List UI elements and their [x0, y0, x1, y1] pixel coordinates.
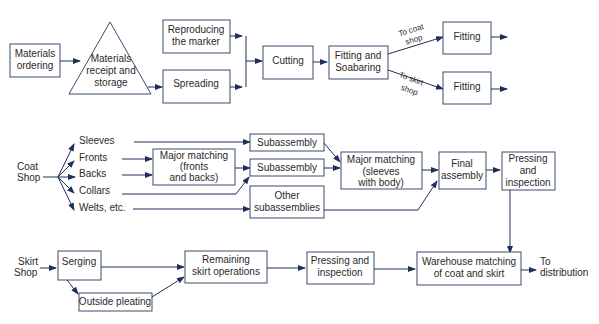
svg-text:(sleeves: (sleeves: [362, 166, 399, 177]
materials-ordering-label-2: ordering: [17, 60, 54, 71]
reproducing-marker-node: Reproducing the marker: [163, 20, 230, 53]
spreading-label: Spreading: [173, 78, 219, 89]
svg-text:(fronts: (fronts: [180, 161, 208, 172]
arrow-to-welts: [58, 177, 74, 210]
receipt-label-2: receipt and: [86, 65, 135, 76]
svg-text:Serging: Serging: [62, 256, 96, 267]
arrow-to-collars: [58, 177, 74, 193]
svg-text:Final: Final: [451, 158, 473, 169]
svg-text:inspection: inspection: [505, 177, 550, 188]
svg-text:of coat and skirt: of coat and skirt: [434, 268, 505, 279]
to-distribution-label-2: distribution: [540, 267, 588, 278]
svg-text:assembly: assembly: [441, 170, 483, 181]
fitting-soabaring-label-1: Fitting and: [335, 50, 382, 61]
warehouse-matching-node: Warehouse matching of coat and skirt: [417, 252, 521, 285]
reproducing-label-1: Reproducing: [168, 24, 225, 35]
fitting-soabaring-label-2: Soabaring: [335, 62, 381, 73]
coat-pressing-inspection-node: Pressing and inspection: [502, 152, 555, 190]
svg-text:and: and: [520, 165, 537, 176]
svg-text:Outside pleating: Outside pleating: [79, 296, 151, 307]
svg-text:Pressing and: Pressing and: [311, 255, 369, 266]
fitting-soabaring-node: Fitting and Soabaring: [329, 46, 388, 79]
arrow-to-fronts: [58, 161, 74, 177]
spreading-node: Spreading: [163, 70, 230, 103]
to-distribution-label-1: To: [540, 256, 551, 267]
svg-text:with body): with body): [357, 177, 404, 188]
arrow-pleating-to-remaining: [152, 277, 184, 297]
receipt-label-1: Materials: [91, 53, 132, 64]
svg-text:Major matching: Major matching: [347, 154, 415, 165]
cutting-node: Cutting: [263, 46, 313, 79]
major-matching-sleeves-body-node: Major matching (sleeves with body): [341, 152, 422, 189]
svg-text:Subassembly: Subassembly: [257, 162, 317, 173]
serging-node: Serging: [58, 251, 101, 280]
major-matching-fronts-backs-node: Major matching (fronts and backs): [153, 149, 235, 185]
materials-receipt-storage-node: Materials receipt and storage: [69, 22, 151, 94]
subassembly-2-node: Subassembly: [250, 159, 324, 176]
fitting-skirt-node: Fitting: [443, 72, 491, 104]
fitting-coat-node: Fitting: [443, 22, 491, 54]
skirt-shop-label: Skirt Shop: [14, 256, 38, 278]
materials-ordering-node: Materials ordering: [10, 44, 60, 77]
part-welts: Welts, etc.: [79, 202, 126, 213]
svg-text:Pressing: Pressing: [509, 153, 548, 164]
arrow-sub1-to-major: [324, 143, 340, 162]
part-fronts: Fronts: [79, 152, 107, 163]
svg-text:Shop: Shop: [14, 267, 38, 278]
svg-text:skirt operations: skirt operations: [192, 266, 260, 277]
remaining-skirt-operations-node: Remaining skirt operations: [185, 251, 267, 283]
svg-text:Shop: Shop: [17, 172, 41, 183]
receipt-label-3: storage: [94, 77, 128, 88]
other-subassemblies-node: Other subassemblies: [250, 186, 324, 218]
fitting-skirt-label: Fitting: [453, 81, 480, 92]
outside-pleating-node: Outside pleating: [79, 293, 152, 311]
svg-text:and backs): and backs): [170, 172, 219, 183]
part-backs: Backs: [79, 168, 106, 179]
arrow-serging-to-pleating: [67, 280, 78, 294]
subassembly-1-node: Subassembly: [250, 134, 324, 151]
svg-text:Remaining: Remaining: [202, 254, 250, 265]
svg-text:Subassembly: Subassembly: [257, 137, 317, 148]
part-collars: Collars: [79, 185, 110, 196]
coat-shop-label: Coat Shop: [17, 161, 41, 183]
svg-text:subassemblies: subassemblies: [254, 202, 320, 213]
svg-text:Coat: Coat: [17, 161, 38, 172]
fitting-coat-label: Fitting: [453, 31, 480, 42]
garment-production-flow-diagram: Materials ordering Materials receipt and…: [0, 0, 599, 324]
skirt-pressing-inspection-node: Pressing and inspection: [307, 252, 374, 284]
svg-text:inspection: inspection: [317, 267, 362, 278]
reproducing-label-2: the marker: [172, 36, 220, 47]
svg-text:Skirt: Skirt: [18, 256, 38, 267]
svg-text:Warehouse matching: Warehouse matching: [422, 256, 516, 267]
final-assembly-node: Final assembly: [439, 152, 486, 189]
materials-ordering-label-1: Materials: [15, 48, 56, 59]
cutting-label: Cutting: [272, 55, 304, 66]
svg-text:Major matching: Major matching: [160, 150, 228, 161]
arrow-to-sleeves: [58, 144, 74, 177]
part-sleeves: Sleeves: [79, 135, 115, 146]
svg-text:Other: Other: [274, 190, 300, 201]
